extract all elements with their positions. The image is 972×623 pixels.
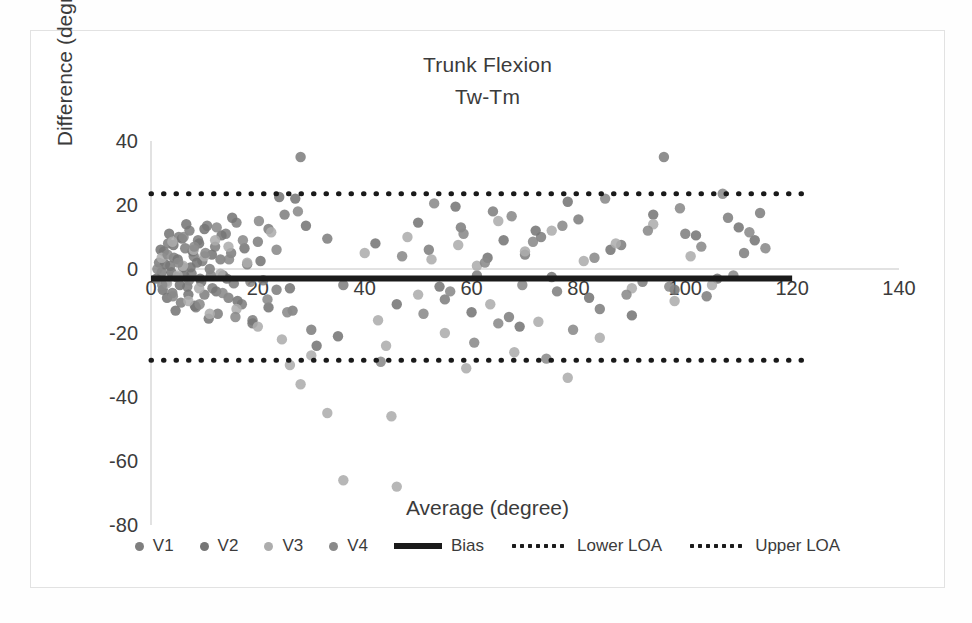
scatter-point bbox=[563, 373, 573, 383]
scatter-point bbox=[595, 304, 605, 314]
legend-item-upper-loa[interactable]: Upper LOA bbox=[688, 536, 840, 556]
scatter-point bbox=[205, 309, 215, 319]
scatter-point bbox=[434, 281, 444, 291]
scatter-point bbox=[701, 291, 711, 301]
scatter-point bbox=[595, 333, 605, 343]
legend-dot-icon bbox=[329, 542, 338, 551]
scatter-point bbox=[282, 307, 292, 317]
chart-legend: V1V2V3V4BiasLower LOAUpper LOA bbox=[31, 536, 944, 556]
scatter-point bbox=[643, 225, 653, 235]
scatter-point bbox=[627, 310, 637, 320]
chart-frame: Trunk Flexion Tw-Tm Difference (degree) … bbox=[30, 30, 945, 588]
scatter-point bbox=[755, 208, 765, 218]
scatter-point bbox=[333, 331, 343, 341]
scatter-point bbox=[498, 235, 508, 245]
scatter-point bbox=[621, 289, 631, 299]
scatter-point bbox=[295, 379, 305, 389]
scatter-point bbox=[152, 264, 162, 274]
scatter-point bbox=[227, 213, 237, 223]
scatter-point bbox=[530, 225, 540, 235]
scatter-point bbox=[450, 201, 460, 211]
legend-item-lower-loa[interactable]: Lower LOA bbox=[510, 536, 662, 556]
scatter-point bbox=[461, 363, 471, 373]
x-tick-label: 140 bbox=[882, 277, 915, 299]
scatter-point bbox=[254, 216, 264, 226]
scatter-point bbox=[200, 248, 210, 258]
legend-dot-icon bbox=[135, 542, 144, 551]
scatter-point bbox=[664, 281, 674, 291]
scatter-point bbox=[696, 241, 706, 251]
scatter-point bbox=[426, 254, 436, 264]
scatter-point bbox=[322, 408, 332, 418]
scatter-point bbox=[183, 296, 193, 306]
scatter-point bbox=[178, 232, 188, 242]
scatter-point bbox=[413, 217, 423, 227]
scatter-point bbox=[429, 198, 439, 208]
y-tick-label: -20 bbox=[109, 322, 138, 344]
legend-item-v3[interactable]: V3 bbox=[264, 536, 303, 556]
legend-label: V1 bbox=[153, 536, 174, 556]
scatter-point bbox=[734, 222, 744, 232]
scatter-point bbox=[453, 240, 463, 250]
scatter-point bbox=[230, 312, 240, 322]
scatter-point bbox=[611, 238, 621, 248]
legend-label: Lower LOA bbox=[577, 536, 662, 556]
scatter-point bbox=[584, 293, 594, 303]
scatter-point bbox=[242, 257, 252, 267]
scatter-point bbox=[480, 257, 490, 267]
scatter-point bbox=[579, 256, 589, 266]
scatter-point bbox=[469, 337, 479, 347]
scatter-point bbox=[285, 283, 295, 293]
scatter-point bbox=[402, 232, 412, 242]
scatter-point bbox=[458, 229, 468, 239]
scatter-point bbox=[293, 206, 303, 216]
legend-item-v1[interactable]: V1 bbox=[135, 536, 174, 556]
plot-area: 40200-20-40-60-80020406080100120140 bbox=[31, 31, 944, 587]
scatter-point bbox=[392, 299, 402, 309]
scatter-point bbox=[760, 243, 770, 253]
scatter-point bbox=[440, 328, 450, 338]
scatter-point bbox=[277, 334, 287, 344]
legend-item-bias[interactable]: Bias bbox=[394, 536, 484, 556]
scatter-point bbox=[466, 307, 476, 317]
scatter-point bbox=[370, 238, 380, 248]
scatter-point bbox=[685, 251, 695, 261]
scatter-point bbox=[744, 227, 754, 237]
scatter-point bbox=[253, 321, 263, 331]
scatter-point bbox=[322, 233, 332, 243]
scatter-point bbox=[181, 219, 191, 229]
scatter-point bbox=[392, 481, 402, 491]
legend-label: V3 bbox=[282, 536, 303, 556]
scatter-point bbox=[253, 237, 263, 247]
scatter-point bbox=[360, 248, 370, 258]
y-tick-label: -60 bbox=[109, 450, 138, 472]
scatter-point bbox=[520, 246, 530, 256]
scatter-point bbox=[493, 318, 503, 328]
scatter-point bbox=[557, 221, 567, 231]
scatter-point bbox=[271, 245, 281, 255]
scatter-point bbox=[381, 341, 391, 351]
scatter-point bbox=[509, 347, 519, 357]
scatter-point bbox=[189, 241, 199, 251]
scatter-point bbox=[506, 211, 516, 221]
legend-dot-icon bbox=[264, 542, 273, 551]
scatter-point bbox=[266, 227, 276, 237]
scatter-point bbox=[238, 235, 248, 245]
scatter-series-v2 bbox=[151, 192, 760, 351]
legend-item-v4[interactable]: V4 bbox=[329, 536, 368, 556]
scatter-point bbox=[488, 206, 498, 216]
scatter-point bbox=[504, 312, 514, 322]
scatter-point bbox=[167, 237, 177, 247]
scatter-point bbox=[424, 245, 434, 255]
scatter-point bbox=[255, 256, 265, 266]
scatter-point bbox=[194, 283, 204, 293]
scatter-point bbox=[279, 209, 289, 219]
legend-solid-line-icon bbox=[394, 543, 442, 549]
scatter-point bbox=[162, 249, 172, 259]
legend-label: Bias bbox=[451, 536, 484, 556]
scatter-point bbox=[217, 288, 227, 298]
scatter-point bbox=[301, 221, 311, 231]
scatter-point bbox=[413, 289, 423, 299]
legend-item-v2[interactable]: V2 bbox=[200, 536, 239, 556]
scatter-point bbox=[418, 309, 428, 319]
